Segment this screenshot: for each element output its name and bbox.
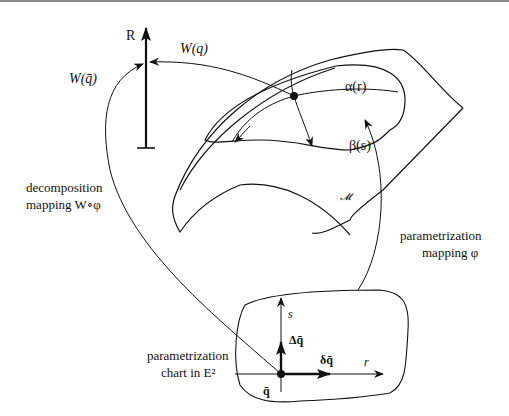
parametrization-mapping-line1: parametrization xyxy=(400,228,482,243)
r-axis-label: R xyxy=(126,28,136,43)
alpha-label: α(r) xyxy=(345,79,367,95)
w-qbar-label: W(q̄) xyxy=(69,71,97,87)
chart-label-line2: chart in E² xyxy=(161,365,216,380)
surface-point xyxy=(290,92,298,100)
decomposition-mapping-arrow xyxy=(106,64,281,374)
s-axis-label: s xyxy=(288,307,293,321)
manifold-label: 𝓜 xyxy=(340,191,355,202)
w-q-label: W(q) xyxy=(180,41,208,57)
delta-cap-label: Δq̄ xyxy=(289,333,304,347)
beta-label: β(s) xyxy=(349,138,371,154)
decomposition-label-line2: mapping W∘φ xyxy=(26,197,101,212)
chart-axes xyxy=(235,298,383,392)
r-chart-axis-label: r xyxy=(364,355,369,369)
diagram-svg: R W(q) W(q̄) α(r) β(s) 𝓜 decomposition m… xyxy=(0,0,509,416)
delta-small-label: δq̄ xyxy=(320,353,333,367)
qbar-label: q̄ xyxy=(263,384,270,398)
parametrization-mapping-line2: mapping φ xyxy=(422,245,478,260)
chart-label-line1: parametrization xyxy=(147,348,229,363)
alpha-curve xyxy=(232,89,398,142)
decomposition-label-line1: decomposition xyxy=(26,180,103,195)
r-axis xyxy=(137,28,155,148)
w-q-arrow xyxy=(150,62,294,96)
diagram-canvas: R W(q) W(q̄) α(r) β(s) 𝓜 decomposition m… xyxy=(0,0,509,416)
chart-region xyxy=(236,290,409,402)
manifold-surface xyxy=(173,49,463,235)
